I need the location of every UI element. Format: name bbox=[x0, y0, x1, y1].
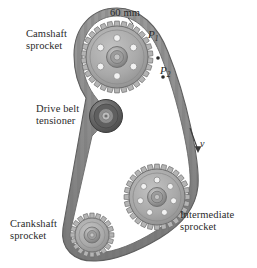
camshaft-hole bbox=[97, 63, 104, 70]
camshaft-hole bbox=[114, 35, 121, 42]
drive-belt-tensioner-label: Drive belt tensioner bbox=[36, 103, 79, 127]
intermediate-sprocket-label: Intermediate sprocket bbox=[180, 209, 234, 233]
intermediate-hole bbox=[171, 198, 177, 204]
tensioner-center-dot bbox=[104, 114, 107, 117]
camshaft-bore bbox=[114, 54, 120, 60]
diameter-dimension-label: 60 mm bbox=[110, 7, 140, 19]
camshaft-sprocket bbox=[81, 21, 153, 93]
point-p1-subscript: 1 bbox=[155, 34, 159, 43]
crankshaft-bore bbox=[90, 233, 94, 237]
drive-belt-tensioner bbox=[90, 100, 123, 133]
point-p1-marker bbox=[156, 56, 160, 60]
intermediate-hole bbox=[147, 209, 153, 215]
camshaft-sprocket-label: Camshaft sprocket bbox=[26, 28, 67, 52]
camshaft-hole bbox=[114, 73, 121, 80]
point-p1-label: P1 bbox=[148, 28, 159, 44]
velocity-label: v bbox=[200, 138, 205, 149]
camshaft-hole bbox=[130, 63, 137, 70]
intermediate-hole bbox=[154, 177, 160, 183]
point-p2-letter: P bbox=[160, 64, 167, 76]
intermediate-hole bbox=[141, 183, 147, 189]
intermediate-bore bbox=[154, 194, 159, 199]
point-p2-subscript: 2 bbox=[167, 70, 171, 79]
intermediate-hole bbox=[137, 198, 143, 204]
point-p2-label: P2 bbox=[160, 64, 171, 80]
camshaft-hole bbox=[97, 44, 104, 51]
crankshaft-sprocket-label: Crankshaft sprocket bbox=[10, 218, 57, 242]
intermediate-hole bbox=[167, 183, 173, 189]
camshaft-hole bbox=[130, 44, 137, 51]
intermediate-hole bbox=[161, 209, 167, 215]
point-p1-letter: P bbox=[148, 28, 155, 40]
